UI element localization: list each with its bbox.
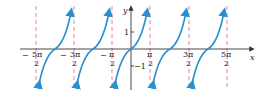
svg-text:2: 2 [110,59,115,68]
tangent-graph: y x 1 −1 − 5π 2 − 3π 2 − π 2 π 2 3π 2 5π… [0,0,271,95]
svg-text:2: 2 [34,59,39,68]
svg-text:3π: 3π [70,50,80,59]
svg-text:−: − [22,51,29,60]
svg-text:π: π [109,50,114,59]
svg-text:5π: 5π [221,50,231,59]
svg-text:−: − [100,51,107,60]
svg-text:2: 2 [148,59,153,68]
svg-text:2: 2 [224,59,229,68]
svg-text:π: π [147,50,152,59]
svg-text:3π: 3π [183,50,193,59]
svg-text:2: 2 [72,59,77,68]
y-axis-label: y [122,6,128,15]
y-tick-neg1: −1 [134,62,146,71]
y-tick-1: 1 [124,28,129,37]
svg-text:2: 2 [186,59,191,68]
svg-text:5π: 5π [32,50,42,59]
tangent-curves [39,12,224,84]
asymptotes [36,6,227,88]
x-axis-label: x [250,53,255,62]
svg-text:−: − [60,51,67,60]
